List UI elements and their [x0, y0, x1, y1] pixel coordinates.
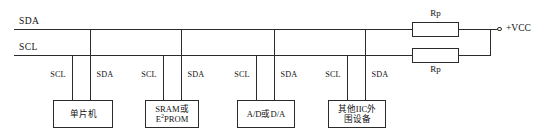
device-converter-sda-wire [274, 29, 275, 100]
device-memory-pin-scl-label: SCL [137, 70, 161, 79]
device-converter-scl-wire [256, 55, 257, 100]
vcc-terminal-icon [497, 27, 502, 32]
vcc-label: +VCC [506, 23, 531, 33]
device-other-pin-scl-label: SCL [321, 70, 345, 79]
device-other-scl-wire [347, 55, 348, 100]
supply-junction-wire [490, 29, 491, 56]
pullup-resistor-sda-label: Rp [412, 8, 459, 18]
device-memory-label-line2: E2PROM [156, 114, 189, 124]
device-box-memory[interactable]: SRAM或 E2PROM [145, 100, 199, 128]
sda-bus-label: SDA [19, 16, 39, 26]
device-other-pin-sda-label: SDA [368, 70, 392, 79]
device-box-other-peripheral[interactable]: 其他IIC外 围设备 [328, 100, 386, 128]
device-memory-label-line2-post: PROM [164, 114, 188, 124]
device-box-converter[interactable]: A/D或D/A [237, 100, 295, 128]
device-memory-scl-wire [163, 55, 164, 100]
device-memory-pin-sda-label: SDA [184, 70, 208, 79]
device-mcu-pin-sda-label: SDA [93, 70, 117, 79]
iic-bus-diagram: SDA SCL SCL SDA 单片机 SCL SDA SRAM或 E2PROM… [0, 0, 539, 140]
device-mcu-label: 单片机 [70, 109, 97, 119]
pullup-resistor-scl-label: Rp [412, 64, 459, 74]
pullup-resistor-scl[interactable] [412, 48, 459, 63]
device-other-label-line1: 其他IIC外 [338, 104, 376, 114]
device-mcu-scl-wire [72, 55, 73, 100]
device-mcu-sda-wire [90, 29, 91, 100]
device-mcu-pin-scl-label: SCL [46, 70, 70, 79]
pullup-resistor-sda[interactable] [412, 22, 459, 37]
device-box-mcu[interactable]: 单片机 [53, 100, 113, 128]
device-converter-pin-scl-label: SCL [230, 70, 254, 79]
device-other-sda-wire [365, 29, 366, 100]
device-converter-label: A/D或D/A [247, 109, 286, 119]
device-memory-sda-wire [181, 29, 182, 100]
device-converter-pin-sda-label: SDA [277, 70, 301, 79]
device-other-label-line2: 围设备 [344, 114, 371, 124]
scl-bus-label: SCL [19, 42, 38, 52]
